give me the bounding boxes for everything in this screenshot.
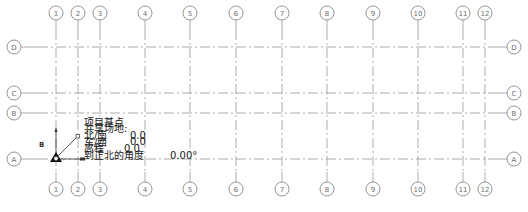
grid-bubble-bottom-12[interactable]: 12 [478,182,492,196]
grid-bubble-bottom-6[interactable]: 6 [229,182,243,196]
grid-bubble-label: B [12,110,17,118]
grid-bubble-top-4[interactable]: 4 [138,6,152,20]
grid-bubble-top-5[interactable]: 5 [183,6,197,20]
grid-bubble-label: 7 [280,10,284,18]
grid-bubble-top-1[interactable]: 1 [49,6,63,20]
base-point-annotation: 项目基点 共享场地: 北/南 0.0 东/西 0.0 高程 0.0 到正北的角度… [84,118,284,168]
grid-bubble-label: 1 [54,10,58,18]
grid-bubble-label: 8 [325,186,329,194]
grid-bubble-right-A[interactable]: A [507,152,521,166]
grid-bubble-right-C[interactable]: C [507,86,521,100]
grid-bubble-bottom-10[interactable]: 10 [411,182,425,196]
grid-bubble-bottom-11[interactable]: 11 [456,182,470,196]
grid-bubble-label: 3 [98,186,102,194]
grid-bubble-bottom-9[interactable]: 9 [366,182,380,196]
grid-bubble-label: 11 [459,10,468,18]
angle-to-true-north-value: 0.00° [170,151,197,160]
grid-bubble-top-2[interactable]: 2 [71,6,85,20]
base-point-circle-icon [54,156,58,160]
grid-bubble-label: 3 [98,10,102,18]
grid-bubble-top-11[interactable]: 11 [456,6,470,20]
grid-bubble-label: B [512,110,517,118]
grid-bubble-bottom-8[interactable]: 8 [320,182,334,196]
grid-bubble-top-9[interactable]: 9 [366,6,380,20]
grid-bubble-left-C[interactable]: C [7,86,21,100]
base-point-marker-label: B [39,141,44,150]
grid-bubble-bottom-3[interactable]: 3 [93,182,107,196]
grid-bubble-label: 12 [481,10,490,18]
grid-bubble-label: 11 [459,186,468,194]
grid-bubble-top-3[interactable]: 3 [93,6,107,20]
grid-bubble-bottom-7[interactable]: 7 [275,182,289,196]
grid-bubble-bottom-2[interactable]: 2 [71,182,85,196]
grid-bubble-label: 7 [280,186,284,194]
grid-bubble-label: 5 [188,10,192,18]
grid-bubble-bottom-4[interactable]: 4 [138,182,152,196]
grid-bubble-label: 4 [143,10,148,18]
grid-bubble-label: C [12,90,17,98]
grid-bubble-right-B[interactable]: B [507,106,521,120]
grid-bubble-label: 2 [76,186,80,194]
grid-bubble-top-12[interactable]: 12 [478,6,492,20]
grid-bubble-bottom-5[interactable]: 5 [183,182,197,196]
grid-bubble-top-7[interactable]: 7 [275,6,289,20]
grid-bubble-label: C [512,90,517,98]
project-base-point-marker[interactable] [50,127,85,162]
grid-bubble-label: 2 [76,10,80,18]
grid-bubble-label: A [512,156,517,164]
grid-bubble-label: D [11,44,16,52]
grid-bubble-top-8[interactable]: 8 [320,6,334,20]
grid-bubble-top-6[interactable]: 6 [229,6,243,20]
grid-bubble-left-B[interactable]: B [7,106,21,120]
grid-bubble-label: 10 [414,10,423,18]
grid-bubble-label: 1 [54,186,58,194]
grid-bubble-top-10[interactable]: 10 [411,6,425,20]
grid-bubble-label: 12 [481,186,490,194]
leader-grip-icon [76,135,80,139]
grid-bubble-label: 5 [188,186,192,194]
grid-bubble-label: 4 [143,186,148,194]
grid-bubble-label: 10 [414,186,423,194]
arrow-up-icon [55,127,58,132]
grid-bubble-label: 6 [234,186,239,194]
grid-bubble-label: 9 [371,10,375,18]
angle-to-true-north-label: 到正北的角度 [84,151,144,160]
grid-drawing-canvas: DDCCBBAA112233445566778899101011111212 [0,0,528,212]
grid-bubble-label: 8 [325,10,329,18]
grid-bubble-label: D [511,44,516,52]
grid-bubble-label: 9 [371,186,375,194]
grid-bubble-bottom-1[interactable]: 1 [49,182,63,196]
grid-bubble-left-A[interactable]: A [7,152,21,166]
grid-bubble-label: A [12,156,17,164]
grid-bubble-right-D[interactable]: D [507,40,521,54]
grid-bubble-left-D[interactable]: D [7,40,21,54]
grid-bubble-label: 6 [234,10,239,18]
